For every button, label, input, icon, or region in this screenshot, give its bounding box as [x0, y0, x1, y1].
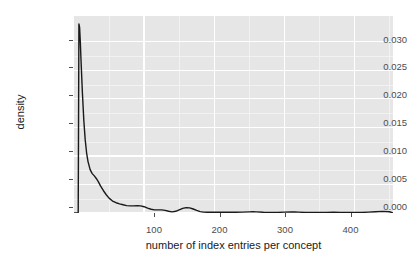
x-tick-label: 200 [200, 224, 240, 235]
plot-panel [74, 16, 393, 213]
y-tick-label: 0.010 [361, 146, 407, 156]
y-tick-label: 0.020 [361, 90, 407, 100]
x-tick-mark [220, 213, 221, 217]
density-curve-path [74, 24, 393, 213]
y-axis-title: density [14, 62, 26, 162]
y-tick-label: 0.015 [361, 118, 407, 128]
y-tick-mark [69, 151, 73, 152]
y-tick-label: 0.025 [361, 62, 407, 72]
y-tick-label: 0.000 [361, 202, 407, 212]
density-plot-figure: 0.030 0.025 0.020 0.015 0.010 0.005 0.00… [0, 0, 407, 262]
y-tick-mark [69, 67, 73, 68]
density-curve [74, 16, 393, 213]
x-axis-title: number of index entries per concept [74, 239, 393, 251]
y-tick-label: 0.005 [361, 174, 407, 184]
y-tick-label: 0.030 [361, 35, 407, 45]
y-tick-mark [69, 95, 73, 96]
x-tick-mark [154, 213, 155, 217]
x-tick-label: 100 [134, 224, 174, 235]
x-tick-label: 400 [331, 224, 371, 235]
y-tick-mark [69, 123, 73, 124]
x-tick-mark [285, 213, 286, 217]
y-tick-mark [69, 179, 73, 180]
x-tick-mark [351, 213, 352, 217]
y-tick-mark [69, 40, 73, 41]
y-tick-mark [69, 207, 73, 208]
x-tick-label: 300 [265, 224, 305, 235]
